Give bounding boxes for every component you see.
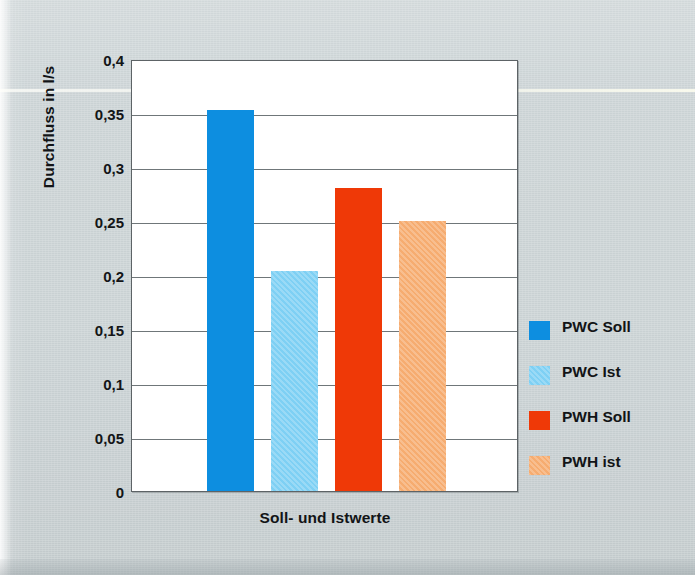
scan-bottom-shadow (0, 559, 695, 575)
y-tick-label: 0,05 (95, 430, 124, 447)
y-tick-label: 0,15 (95, 322, 124, 339)
legend-label: PWH ist (562, 453, 621, 471)
chart-legend: PWC SollPWC IstPWH SollPWH ist (529, 318, 689, 498)
y-tick-label: 0,25 (95, 214, 124, 231)
y-axis-tick-labels: 0,40,350,30,250,20,150,10,050 (58, 60, 124, 492)
legend-item: PWH ist (529, 453, 689, 498)
bar-pwc-soll (207, 110, 254, 491)
legend-label: PWC Ist (562, 363, 621, 381)
y-tick-label: 0,2 (103, 268, 124, 285)
y-tick-label: 0,35 (95, 106, 124, 123)
legend-label: PWH Soll (562, 408, 631, 426)
legend-item: PWC Soll (529, 318, 689, 363)
gridline (132, 277, 517, 278)
y-axis-title: Durchfluss in l/s (40, 37, 58, 217)
gridline (132, 115, 517, 116)
page-left-edge-highlight (0, 0, 12, 575)
legend-label: PWC Soll (562, 318, 631, 336)
plot-area (131, 60, 518, 492)
chart-page: Durchfluss in l/s 0,40,350,30,250,20,150… (0, 0, 695, 575)
gridline (132, 223, 517, 224)
gridline (132, 439, 517, 440)
y-tick-label: 0,3 (103, 160, 124, 177)
legend-swatch (529, 456, 550, 475)
y-tick-label: 0,1 (103, 376, 124, 393)
gridline (132, 385, 517, 386)
legend-swatch (529, 321, 550, 340)
gridline (132, 169, 517, 170)
y-tick-label: 0 (116, 484, 124, 501)
legend-swatch (529, 411, 550, 430)
bar-pwc-ist (271, 271, 318, 491)
y-tick-label: 0,4 (103, 52, 124, 69)
legend-swatch (529, 366, 550, 385)
bar-pwh-ist (399, 221, 446, 491)
legend-item: PWH Soll (529, 408, 689, 453)
x-axis-title: Soll- und Istwerte (131, 509, 519, 527)
legend-item: PWC Ist (529, 363, 689, 408)
gridline (132, 331, 517, 332)
bar-pwh-soll (335, 188, 382, 491)
